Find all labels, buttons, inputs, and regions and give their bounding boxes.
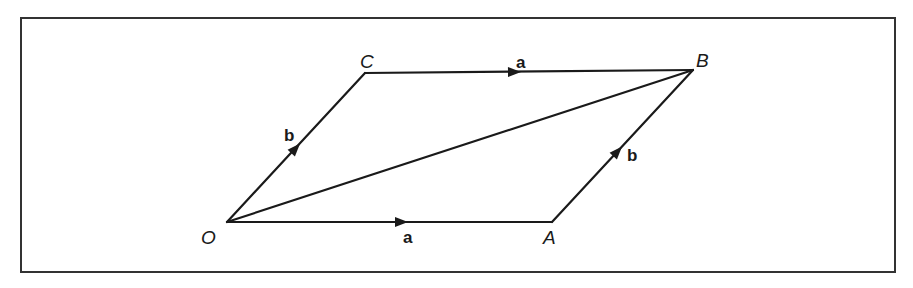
vector-label-b-left: b xyxy=(284,126,294,145)
figure-border xyxy=(21,18,895,272)
vector-label-b-right: b xyxy=(627,146,637,165)
vector-label-a-top: a xyxy=(516,53,526,72)
vertex-label-A: A xyxy=(542,227,556,248)
vertex-label-O: O xyxy=(201,227,216,248)
vertex-label-B: B xyxy=(696,50,709,71)
edge-CB xyxy=(365,70,693,73)
vector-label-a-bottom: a xyxy=(403,228,413,247)
arrow-icon-OA xyxy=(395,217,408,227)
vertex-label-C: C xyxy=(360,51,374,72)
parallelogram-diagram: O A B C a a b b xyxy=(0,0,913,288)
